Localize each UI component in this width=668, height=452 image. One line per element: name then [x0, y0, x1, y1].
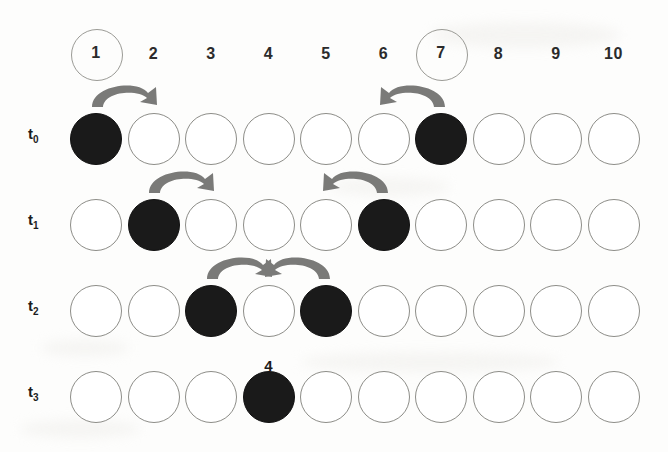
row-label-subscript: 1: [33, 220, 39, 231]
cell-8-empty[interactable]: [473, 199, 525, 251]
cell-2-empty[interactable]: [128, 113, 180, 165]
column-number-header: 12345678910: [0, 0, 668, 86]
row-t1: t1: [0, 191, 668, 263]
cell-6-empty[interactable]: [358, 285, 410, 337]
cell-3-empty[interactable]: [185, 199, 237, 251]
cell-5-filled[interactable]: [300, 285, 352, 337]
column-number-5: 5: [300, 45, 352, 63]
column-number-10: 10: [588, 45, 640, 63]
cell-2-empty[interactable]: [128, 371, 180, 423]
cell-1-empty[interactable]: [70, 285, 122, 337]
cell-4-empty[interactable]: [243, 285, 295, 337]
cell-5-empty[interactable]: [300, 371, 352, 423]
cell-6-empty[interactable]: [358, 371, 410, 423]
cell-5-empty[interactable]: [300, 113, 352, 165]
row-label-subscript: 3: [33, 392, 39, 403]
cell-10-empty[interactable]: [588, 199, 640, 251]
cell-1-empty[interactable]: [70, 199, 122, 251]
row-label-row-t0: t0: [28, 125, 39, 145]
cell-2-empty[interactable]: [128, 285, 180, 337]
cell-9-empty[interactable]: [530, 285, 582, 337]
cell-6-empty[interactable]: [358, 113, 410, 165]
cell-8-empty[interactable]: [473, 285, 525, 337]
cell-1-filled[interactable]: [70, 113, 122, 165]
cell-3-empty[interactable]: [185, 371, 237, 423]
row-t2: t2: [0, 277, 668, 349]
cell-7-empty[interactable]: [415, 285, 467, 337]
cell-9-empty[interactable]: [530, 371, 582, 423]
column-number-9: 9: [530, 45, 582, 63]
cell-7-filled[interactable]: [415, 113, 467, 165]
cell-8-empty[interactable]: [473, 371, 525, 423]
cell-8-empty[interactable]: [473, 113, 525, 165]
cell-10-empty[interactable]: [588, 371, 640, 423]
row-label-row-t3: t3: [28, 383, 39, 403]
diagram-canvas: 12345678910 t0t1t2t34: [0, 0, 668, 452]
cell-7-empty[interactable]: [415, 199, 467, 251]
row-t0: t0: [0, 105, 668, 177]
cell-6-filled[interactable]: [358, 199, 410, 251]
row-label-subscript: 0: [33, 134, 39, 145]
cell-3-filled[interactable]: [185, 285, 237, 337]
cell-9-empty[interactable]: [530, 199, 582, 251]
column-number-1: 1: [70, 44, 122, 62]
cell-4-filled[interactable]: [243, 371, 295, 423]
cell-10-empty[interactable]: [588, 113, 640, 165]
row-label-subscript: 2: [33, 306, 39, 317]
column-number-7: 7: [415, 44, 467, 62]
column-number-8: 8: [473, 45, 525, 63]
column-number-6: 6: [358, 45, 410, 63]
cell-10-empty[interactable]: [588, 285, 640, 337]
column-number-3: 3: [185, 45, 237, 63]
row-label-row-t1: t1: [28, 211, 39, 231]
cell-4-empty[interactable]: [243, 113, 295, 165]
cell-4-empty[interactable]: [243, 199, 295, 251]
cell-7-empty[interactable]: [415, 371, 467, 423]
column-number-2: 2: [128, 45, 180, 63]
row-label-row-t2: t2: [28, 297, 39, 317]
cell-2-filled[interactable]: [128, 199, 180, 251]
cell-tag-4: 4: [243, 357, 295, 374]
cell-1-empty[interactable]: [70, 371, 122, 423]
cell-5-empty[interactable]: [300, 199, 352, 251]
cell-9-empty[interactable]: [530, 113, 582, 165]
row-t3: t34: [0, 363, 668, 435]
column-number-4: 4: [243, 45, 295, 63]
cell-3-empty[interactable]: [185, 113, 237, 165]
